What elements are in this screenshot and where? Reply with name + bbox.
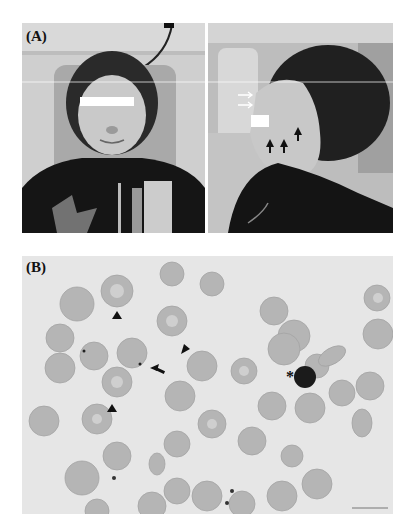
dark-cell <box>294 366 316 388</box>
panel-a-frontal-photo: (A) <box>22 23 205 233</box>
panel-a-label: (A) <box>26 28 47 45</box>
asterisk-marker: * <box>286 368 294 385</box>
panel-a-lateral-photo <box>208 23 393 233</box>
panel-b-label: (B) <box>26 259 46 276</box>
panel-b-blood-smear: * (B) <box>22 256 393 514</box>
lateral-photo-image <box>208 23 393 233</box>
frontal-photo-image <box>22 23 205 233</box>
blood-smear-image: * <box>22 256 393 514</box>
